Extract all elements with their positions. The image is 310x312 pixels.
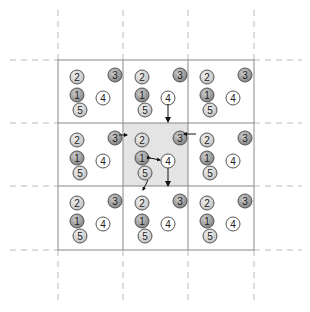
svg-text:2: 2: [74, 72, 80, 83]
svg-text:3: 3: [177, 133, 183, 144]
svg-text:3: 3: [242, 133, 248, 144]
svg-text:2: 2: [139, 135, 145, 146]
svg-text:1: 1: [204, 90, 210, 101]
node-2: 2: [135, 196, 149, 210]
svg-text:5: 5: [207, 105, 213, 116]
grid-svg: 1234512345123451234512345123451234512345…: [0, 0, 310, 312]
svg-text:2: 2: [139, 198, 145, 209]
node-5: 5: [73, 166, 87, 180]
svg-text:3: 3: [242, 70, 248, 81]
node-1: 1: [70, 151, 84, 165]
node-5: 5: [203, 166, 217, 180]
node-3: 3: [108, 68, 122, 82]
node-2: 2: [70, 70, 84, 84]
node-3: 3: [173, 194, 187, 208]
svg-text:5: 5: [142, 168, 148, 179]
node-1: 1: [70, 88, 84, 102]
node-1: 1: [200, 151, 214, 165]
node-3: 3: [238, 194, 252, 208]
svg-text:2: 2: [204, 198, 210, 209]
node-3: 3: [173, 68, 187, 82]
svg-text:4: 4: [230, 156, 236, 167]
node-3: 3: [108, 131, 122, 145]
svg-text:5: 5: [142, 231, 148, 242]
svg-text:3: 3: [112, 196, 118, 207]
svg-text:1: 1: [139, 216, 145, 227]
node-4: 4: [226, 217, 240, 231]
node-5: 5: [73, 229, 87, 243]
svg-text:1: 1: [74, 90, 80, 101]
node-1: 1: [135, 88, 149, 102]
node-4: 4: [161, 154, 175, 168]
node-3: 3: [238, 68, 252, 82]
node-1: 1: [200, 88, 214, 102]
node-3: 3: [173, 131, 187, 145]
node-4: 4: [226, 91, 240, 105]
node-4: 4: [96, 154, 110, 168]
node-2: 2: [200, 133, 214, 147]
node-5: 5: [73, 103, 87, 117]
svg-text:3: 3: [177, 196, 183, 207]
svg-text:5: 5: [77, 105, 83, 116]
node-1: 1: [135, 214, 149, 228]
node-4: 4: [96, 217, 110, 231]
svg-text:4: 4: [230, 219, 236, 230]
node-5: 5: [138, 103, 152, 117]
svg-text:2: 2: [74, 135, 80, 146]
node-1: 1: [70, 214, 84, 228]
node-2: 2: [70, 196, 84, 210]
grid-diagram: 1234512345123451234512345123451234512345…: [0, 0, 310, 312]
svg-text:1: 1: [139, 90, 145, 101]
svg-text:1: 1: [139, 153, 145, 164]
svg-text:3: 3: [242, 196, 248, 207]
svg-text:2: 2: [139, 72, 145, 83]
svg-text:2: 2: [74, 198, 80, 209]
svg-text:5: 5: [77, 231, 83, 242]
svg-text:1: 1: [204, 153, 210, 164]
svg-text:4: 4: [165, 93, 171, 104]
node-5: 5: [138, 166, 152, 180]
node-1: 1: [200, 214, 214, 228]
svg-text:4: 4: [100, 156, 106, 167]
node-4: 4: [161, 217, 175, 231]
svg-text:5: 5: [207, 168, 213, 179]
node-3: 3: [108, 194, 122, 208]
svg-text:4: 4: [230, 93, 236, 104]
node-2: 2: [70, 133, 84, 147]
svg-text:4: 4: [165, 219, 171, 230]
svg-text:5: 5: [142, 105, 148, 116]
svg-text:1: 1: [204, 216, 210, 227]
svg-text:4: 4: [165, 156, 171, 167]
node-4: 4: [226, 154, 240, 168]
node-4: 4: [96, 91, 110, 105]
node-2: 2: [200, 196, 214, 210]
svg-text:3: 3: [177, 70, 183, 81]
node-5: 5: [138, 229, 152, 243]
svg-text:5: 5: [77, 168, 83, 179]
node-2: 2: [200, 70, 214, 84]
node-1: 1: [135, 151, 149, 165]
svg-text:2: 2: [204, 72, 210, 83]
node-2: 2: [135, 133, 149, 147]
svg-text:1: 1: [74, 216, 80, 227]
svg-text:5: 5: [207, 231, 213, 242]
node-4: 4: [161, 91, 175, 105]
svg-text:1: 1: [74, 153, 80, 164]
node-2: 2: [135, 70, 149, 84]
svg-text:2: 2: [204, 135, 210, 146]
node-3: 3: [238, 131, 252, 145]
svg-text:4: 4: [100, 219, 106, 230]
svg-text:3: 3: [112, 70, 118, 81]
node-5: 5: [203, 229, 217, 243]
svg-text:4: 4: [100, 93, 106, 104]
svg-text:3: 3: [112, 133, 118, 144]
node-5: 5: [203, 103, 217, 117]
